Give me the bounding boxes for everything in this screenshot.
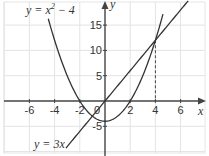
chart: -6-4-20246-551015 y = x2 − 4 y = 3x x y <box>0 0 209 156</box>
y-tick-label: 5 <box>96 70 102 82</box>
y-axis-name: y <box>109 0 116 11</box>
axes <box>4 1 206 156</box>
x-tick-label: 2 <box>127 104 133 116</box>
x-tick-label: -6 <box>25 104 35 116</box>
y-tick-label: 15 <box>90 19 102 31</box>
y-tick-label: 10 <box>90 44 102 56</box>
x-tick-label: -4 <box>50 104 60 116</box>
line-label: y = 3x <box>33 137 65 151</box>
x-tick-label: 6 <box>178 104 184 116</box>
x-axis-name: x <box>197 104 204 118</box>
y-tick-label: -5 <box>92 120 102 132</box>
x-tick-label: 4 <box>152 104 158 116</box>
parabola-label: y = x2 − 4 <box>25 2 75 17</box>
